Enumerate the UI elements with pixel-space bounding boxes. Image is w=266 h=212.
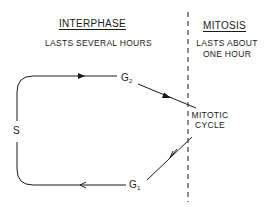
mitosis-title: MITOSIS — [203, 20, 246, 31]
mitotic-cycle-line2: CYCLE — [190, 120, 230, 130]
arrow-diagonal-left-icon — [170, 149, 177, 158]
node-s: S — [13, 125, 20, 136]
interphase-title: INTERPHASE — [59, 18, 126, 29]
mitotic-cycle-line1: MITOTIC — [190, 110, 230, 120]
interphase-duration: LASTS SEVERAL HOURS — [45, 38, 152, 48]
node-g1: G1 — [129, 179, 141, 191]
node-mitotic-cycle: MITOTIC CYCLE — [190, 110, 230, 130]
node-g2: G2 — [121, 72, 133, 84]
mitosis-duration-line1: LASTS ABOUT — [196, 38, 258, 48]
mitosis-duration-line2: ONE HOUR — [196, 49, 258, 59]
g1-letter: G — [129, 179, 137, 190]
g1-subscript: 1 — [137, 185, 141, 191]
g2-subscript: 2 — [129, 78, 133, 84]
arrow-diagonal-down-icon — [162, 93, 171, 99]
arrow-right-icon — [78, 73, 85, 79]
s-to-g2-edge — [17, 76, 117, 121]
mitosis-to-g1-edge — [147, 137, 192, 180]
mitosis-duration: LASTS ABOUT ONE HOUR — [196, 38, 258, 59]
g2-letter: G — [121, 72, 129, 83]
g1-to-s-edge — [17, 142, 126, 185]
